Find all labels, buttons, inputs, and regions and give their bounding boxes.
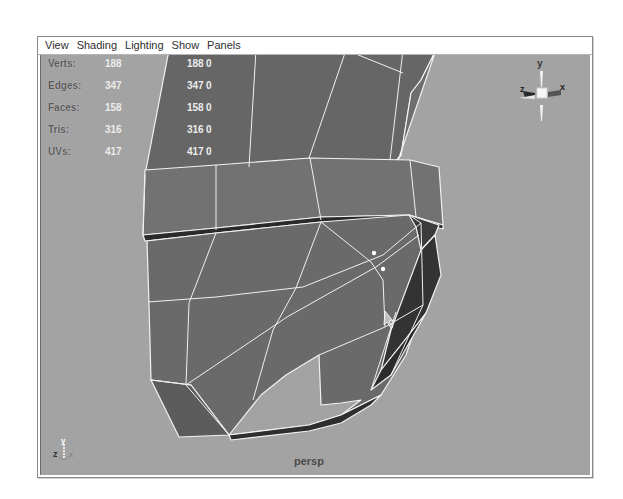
menu-show[interactable]: Show (169, 37, 205, 54)
hud-value: 316 (187, 123, 204, 137)
menu-shading[interactable]: Shading (74, 37, 122, 54)
hud-value: 417 (187, 145, 204, 159)
hud-value: 188 (105, 57, 122, 71)
svg-text:z: z (520, 84, 525, 94)
hud-value: 347 (187, 79, 204, 93)
hud-value: 188 (187, 57, 204, 71)
axis-gizmo-icon: y z x (53, 435, 83, 463)
hud-label: UVs: (48, 145, 71, 159)
menu-panels[interactable]: Panels (204, 37, 246, 54)
polygon-mesh[interactable] (41, 55, 590, 475)
hud-value: 0 (206, 79, 212, 93)
viewport-panel-window: View Shading Lighting Show Panels (37, 36, 593, 478)
viewcube-axes-icon: y z x (515, 57, 567, 129)
menu-lighting[interactable]: Lighting (122, 37, 169, 54)
menu-view[interactable]: View (42, 37, 74, 54)
hud-value: 158 (105, 101, 122, 115)
svg-text:y: y (537, 58, 543, 69)
svg-text:x: x (560, 82, 565, 92)
hud-value: 316 (105, 123, 122, 137)
svg-text:y: y (61, 436, 66, 445)
hud-value: 0 (206, 123, 212, 137)
hud-value: 417 (105, 145, 122, 159)
hud-value: 0 (206, 57, 212, 71)
axis-orientation-gizmo: y z x (53, 435, 83, 463)
3d-viewport[interactable]: Verts: 188 188 0 Edges: 347 347 0 Faces:… (40, 55, 590, 475)
hud-value: 347 (105, 79, 122, 93)
viewcube[interactable]: y z x (515, 57, 567, 129)
hud-value: 0 (206, 145, 212, 159)
hud-value: 0 (206, 101, 212, 115)
hud-label: Edges: (48, 79, 81, 93)
hud-label: Tris: (48, 123, 69, 137)
camera-name-label: persp (294, 455, 324, 467)
hud-value: 158 (187, 101, 204, 115)
hud-label: Verts: (48, 57, 76, 71)
hud-label: Faces: (48, 101, 80, 115)
panel-menubar: View Shading Lighting Show Panels (38, 37, 592, 55)
svg-text:x: x (69, 450, 73, 459)
svg-text:z: z (53, 449, 58, 459)
